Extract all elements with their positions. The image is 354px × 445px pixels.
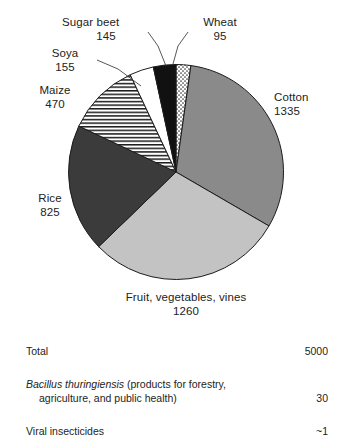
slice-label-soya-name: Soya [52,47,79,59]
table-row-viral-insecticides: Viral insecticides ~1 [0,424,354,438]
table-row-bt-species: Bacillus thuringiensis [26,378,124,390]
pie-chart-area: Sugar beet 145 Wheat 95 Soya 155 Maize 4… [0,0,354,325]
slice-label-soya-value: 155 [34,61,96,75]
slice-label-cotton: Cotton 1335 [274,91,348,118]
slice-label-fruit-vegetables-vines: Fruit, vegetables, vines 1260 [96,291,276,318]
slice-label-fruit-value: 1260 [96,305,276,319]
table-row-bt-value: 30 [316,391,328,405]
table-row-total-label: Total [26,344,48,358]
table-row-bacillus-thuringiensis: Bacillus thuringiensis (products for for… [0,377,354,405]
slice-label-sugar-beet-value: 145 [62,30,154,44]
slice-label-wheat-name: Wheat [203,16,237,28]
summary-table: Total 5000 Bacillus thuringiensis (produ… [0,330,354,438]
table-row-bt-desc: (products for forestry, [124,378,226,390]
slice-label-rice-value: 825 [22,206,78,220]
table-row-viral-value: ~1 [316,424,328,438]
slice-label-wheat: Wheat 95 [190,16,250,43]
table-row-bt-desc-line2: agriculture, and public health) [26,391,226,405]
table-row-total: Total 5000 [0,344,354,358]
slice-label-fruit-name: Fruit, vegetables, vines [126,291,247,303]
slice-label-maize-value: 470 [22,98,88,112]
leader-line-wheat [173,32,188,64]
slice-label-rice: Rice 825 [22,192,78,219]
table-row-viral-label: Viral insecticides [26,424,104,438]
slice-label-sugar-beet-name: Sugar beet [62,16,154,30]
slice-label-cotton-value: 1335 [274,105,348,119]
slice-label-rice-name: Rice [38,192,61,204]
slice-label-maize-name: Maize [39,84,70,96]
slice-label-wheat-value: 95 [190,30,250,44]
slice-label-maize: Maize 470 [22,84,88,111]
slice-label-cotton-name: Cotton [274,91,308,103]
table-row-bt-label: Bacillus thuringiensis (products for for… [26,377,226,405]
pie-slices [68,65,283,280]
pie-chart-figure: Sugar beet 145 Wheat 95 Soya 155 Maize 4… [0,0,354,445]
table-row-total-value: 5000 [305,344,328,358]
slice-label-soya: Soya 155 [34,47,96,74]
slice-label-sugar-beet: Sugar beet 145 [62,16,154,43]
